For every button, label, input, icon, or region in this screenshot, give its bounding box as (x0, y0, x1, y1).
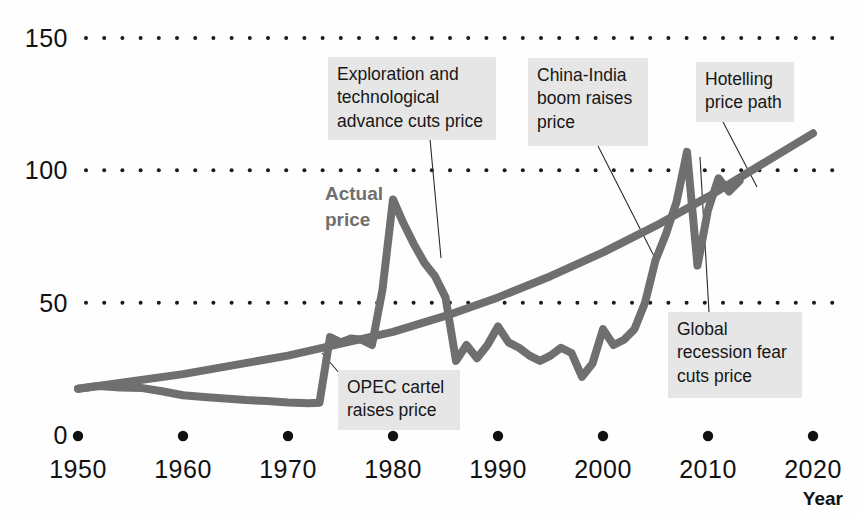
x-tick-label: 1960 (154, 455, 212, 483)
y-tick-label: 0 (54, 421, 68, 449)
y-tick-label: 100 (25, 156, 68, 184)
y-tick-label: 50 (39, 289, 68, 317)
chart-figure: 150100500 195019601970198019902000201020… (0, 0, 860, 516)
callout-exploration: Exploration and technological advance cu… (328, 57, 496, 140)
y-axis-tick-labels: 150100500 (25, 24, 68, 449)
x-tick-dot (493, 431, 503, 441)
x-tick-label: 2020 (784, 455, 842, 483)
x-axis-title: Year (803, 488, 844, 509)
x-tick-label: 2000 (574, 455, 632, 483)
x-tick-dot (178, 431, 188, 441)
callout-china-india: China-India boom raises price (528, 58, 648, 146)
x-tick-dot (808, 431, 818, 441)
x-tick-label: 1970 (259, 455, 317, 483)
callout-recession: Global recession fear cuts price (668, 312, 802, 398)
x-tick-dot (388, 431, 398, 441)
x-tick-dot (283, 431, 293, 441)
callout-opec: OPEC cartel raises price (338, 370, 460, 430)
y-tick-label: 150 (25, 24, 68, 52)
leader-line-exploration (430, 139, 441, 258)
actual-price-label-line1: Actual (325, 183, 383, 204)
x-tick-label: 1950 (49, 455, 107, 483)
x-tick-dot (73, 431, 83, 441)
x-tick-label: 1990 (469, 455, 527, 483)
x-axis-tick-dots (73, 431, 818, 441)
callout-hotelling: Hotelling price path (696, 62, 794, 122)
x-tick-dot (598, 431, 608, 441)
series-line (78, 152, 740, 403)
leader-line-china-india (598, 146, 657, 262)
x-tick-dot (703, 431, 713, 441)
x-axis-tick-labels: 19501960197019801990200020102020 (49, 455, 842, 483)
actual-price-label-line2: price (325, 209, 370, 230)
x-tick-label: 2010 (679, 455, 737, 483)
x-tick-label: 1980 (364, 455, 422, 483)
